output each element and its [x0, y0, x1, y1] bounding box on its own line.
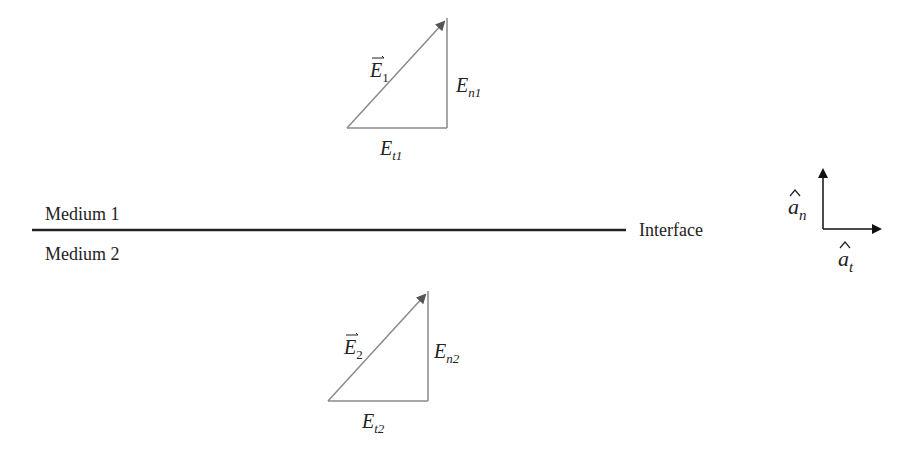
- normal-unit-vector-label: an: [788, 194, 807, 223]
- medium1-label: Medium 1: [45, 204, 120, 224]
- normal-component-2-label: En2: [433, 340, 460, 366]
- normal-component-1-label: En1: [455, 74, 481, 100]
- field-triangle-medium1: E1 En1 Et1: [347, 18, 481, 163]
- field-vector-1-label: E1: [369, 59, 389, 85]
- vector-bar-icon: [346, 333, 358, 335]
- field-vector-2-label: E2: [343, 336, 363, 362]
- medium2-label: Medium 2: [45, 244, 120, 264]
- unit-vector-axes: an at: [788, 170, 880, 275]
- tangential-unit-vector-label: at: [838, 246, 854, 275]
- field-vector-1-arrow: [347, 22, 444, 128]
- diagram-canvas: E1 En1 Et1 Medium 1 Medium 2 Interface E…: [0, 0, 911, 463]
- tangential-component-1-label: Et1: [379, 137, 402, 163]
- interface-label: Interface: [639, 220, 703, 240]
- interface-group: Medium 1 Medium 2 Interface: [32, 204, 703, 264]
- field-vector-2-arrow: [328, 295, 425, 401]
- tangential-component-2-label: Et2: [361, 410, 385, 436]
- vector-bar-icon: [372, 56, 384, 58]
- field-triangle-medium2: E2 En2 Et2: [328, 291, 460, 436]
